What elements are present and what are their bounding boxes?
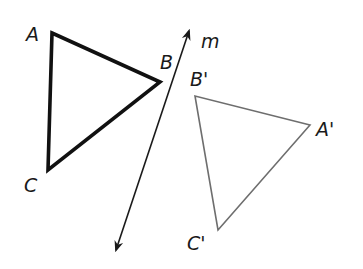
reflection-diagram: m A B C A' B' C' bbox=[0, 0, 363, 269]
triangle-a-prime-b-prime-c-prime bbox=[195, 96, 310, 230]
vertex-label-b-prime: B' bbox=[190, 68, 208, 90]
vertex-label-a: A bbox=[24, 23, 39, 45]
vertex-label-a-prime: A' bbox=[314, 118, 334, 140]
vertex-label-c-prime: C' bbox=[187, 232, 206, 254]
vertex-label-b: B bbox=[160, 51, 173, 73]
line-of-reflection-m bbox=[116, 31, 189, 250]
line-label-m: m bbox=[201, 30, 220, 52]
vertex-label-c: C bbox=[24, 174, 38, 196]
triangle-abc bbox=[48, 33, 160, 170]
